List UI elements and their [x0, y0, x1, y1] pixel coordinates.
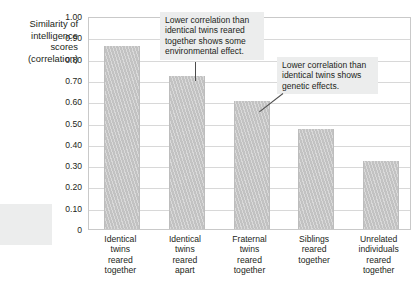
x-axis-category-label: Unrelatedindividualsrearedtogether — [348, 234, 410, 276]
annotation-genetic: Lower correlation than identical twins s… — [277, 57, 378, 94]
x-axis-category-line: individuals — [348, 244, 410, 254]
annotation-line: genetic effects. — [282, 81, 374, 91]
y-axis-tick-label: 0.40 — [52, 140, 82, 150]
x-axis-category-line: Fraternal — [219, 234, 281, 244]
bar — [363, 161, 399, 229]
x-axis-category-line: together — [348, 265, 410, 275]
x-axis-category-line: reared — [89, 255, 151, 265]
y-axis-tick-label: 0.50 — [52, 119, 82, 129]
annotation-line: cates no — [0, 230, 47, 241]
annotation-leader-line-environmental — [195, 62, 196, 81]
x-axis-category-label: Fraternaltwinsrearedtogether — [219, 234, 281, 276]
x-axis-category-label: Siblingsrearedtogether — [283, 234, 345, 265]
annotation-note-clipped: The most ce scores. cates no — [0, 204, 52, 245]
chart-figure: Similarity of intelligence scores (corre… — [0, 0, 416, 281]
x-axis-category-line: twins — [154, 244, 216, 254]
x-axis-category-line: together — [89, 265, 151, 275]
x-axis-category-line: reared — [283, 244, 345, 254]
x-axis-category-line: apart — [154, 265, 216, 275]
x-axis-category-line: reared — [219, 255, 281, 265]
annotation-line: identical twins shows — [282, 70, 374, 80]
annotation-environmental: Lower correlation than identical twins r… — [160, 12, 264, 60]
y-axis-tick-label: 0.80 — [52, 55, 82, 65]
annotation-line: Lower correlation than — [165, 15, 260, 25]
bar — [104, 46, 140, 229]
y-axis-tick-label: 0.70 — [52, 76, 82, 86]
y-axis-tick-label: 0.60 — [52, 97, 82, 107]
annotation-line: Lower correlation than — [282, 60, 374, 70]
annotation-line: ce scores. — [0, 219, 47, 230]
bar — [298, 129, 334, 229]
bar — [169, 76, 205, 229]
y-axis-tick-label: 0.10 — [52, 204, 82, 214]
y-axis-tick-label: 0.90 — [52, 33, 82, 43]
annotation-line: together shows some — [165, 36, 260, 46]
x-axis-category-line: reared — [154, 255, 216, 265]
bar — [234, 101, 270, 229]
x-axis-category-line: Identical — [154, 234, 216, 244]
x-axis-category-line: Identical — [89, 234, 151, 244]
x-axis-category-line: Unrelated — [348, 234, 410, 244]
y-axis-tick-label: 1.00 — [52, 12, 82, 22]
annotation-line: identical twins reared — [165, 25, 260, 35]
y-axis-tick-label: 0 — [52, 225, 82, 235]
x-axis-category-label: Identicaltwinsrearedapart — [154, 234, 216, 276]
x-axis-category-line: twins — [89, 244, 151, 254]
x-axis-category-label: Identicaltwinsrearedtogether — [89, 234, 151, 276]
x-axis-category-line: Siblings — [283, 234, 345, 244]
annotation-line: The most — [0, 208, 47, 219]
x-axis-category-line: together — [219, 265, 281, 275]
x-axis-category-line: together — [283, 255, 345, 265]
y-axis-tick-label: 0.20 — [52, 182, 82, 192]
y-axis-tick-label: 0.30 — [52, 161, 82, 171]
x-axis-category-line: twins — [219, 244, 281, 254]
annotation-line: environmental effect. — [165, 46, 260, 56]
x-axis-category-line: reared — [348, 255, 410, 265]
